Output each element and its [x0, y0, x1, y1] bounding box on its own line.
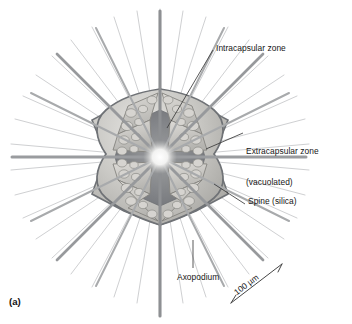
label-intracapsular-zone: Intracapsular zone: [216, 43, 286, 53]
label-axopodium: Axopodium: [177, 272, 219, 282]
label-extracapsular-line2: (vacuolated): [246, 177, 319, 187]
label-spine-silica: Spine (silica): [248, 196, 297, 206]
figure-panel: Intracapsular zone Extracapsular zone (v…: [0, 0, 352, 324]
panel-letter: (a): [9, 296, 21, 307]
central-hub: [143, 140, 177, 174]
label-extracapsular-line1: Extracapsular zone: [246, 146, 319, 156]
